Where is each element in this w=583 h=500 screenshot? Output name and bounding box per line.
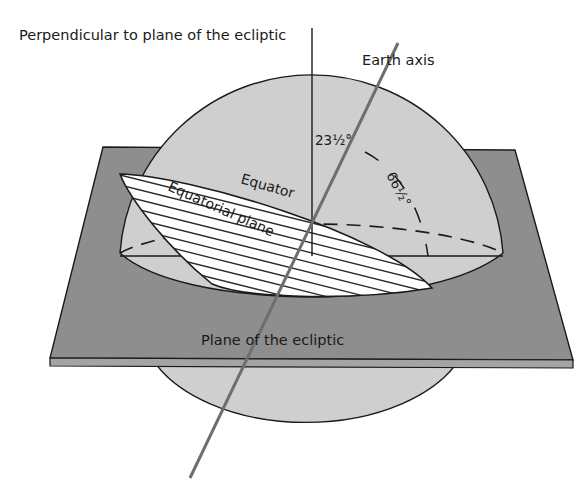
- earth-tilt-diagram: Perpendicular to plane of the ecliptic E…: [0, 0, 583, 500]
- earth-axis-label: Earth axis: [362, 52, 435, 68]
- plane-of-ecliptic-label: Plane of the ecliptic: [201, 332, 344, 348]
- angle-23-label: 23½°: [315, 132, 352, 148]
- perpendicular-label: Perpendicular to plane of the ecliptic: [19, 27, 286, 43]
